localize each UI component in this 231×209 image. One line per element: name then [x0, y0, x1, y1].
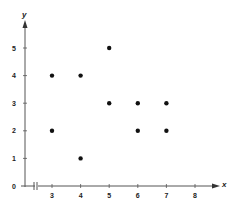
x-tick-label: 5 — [107, 192, 111, 199]
y-axis-arrow-icon — [23, 20, 28, 28]
data-point — [107, 101, 111, 105]
ticks: 345678012345 — [12, 45, 197, 200]
data-point — [164, 101, 168, 105]
y-tick-label: 3 — [12, 100, 16, 107]
data-point — [50, 73, 54, 77]
data-point — [78, 156, 82, 160]
data-point — [164, 129, 168, 133]
y-tick-label: 4 — [12, 72, 16, 79]
y-axis-label: y — [21, 10, 27, 19]
y-tick-label: 5 — [12, 45, 16, 52]
x-axis-label: x — [221, 180, 227, 189]
axes: yx — [21, 10, 227, 190]
x-tick-label: 6 — [136, 192, 140, 199]
data-point — [136, 101, 140, 105]
data-points — [50, 46, 169, 161]
x-tick-label: 4 — [79, 192, 83, 199]
data-point — [136, 129, 140, 133]
x-tick-label: 8 — [193, 192, 197, 199]
data-point — [107, 46, 111, 50]
scatter-plot-svg: yx 345678012345 — [0, 0, 231, 209]
x-tick-label: 3 — [50, 192, 54, 199]
x-axis-arrow-icon — [212, 184, 220, 189]
y-tick-label: 2 — [12, 127, 16, 134]
x-tick-label: 7 — [164, 192, 168, 199]
y-tick-label: 1 — [12, 155, 16, 162]
data-point — [50, 129, 54, 133]
scatter-chart: yx 345678012345 — [0, 0, 231, 209]
data-point — [78, 73, 82, 77]
y-tick-label: 0 — [12, 183, 16, 190]
